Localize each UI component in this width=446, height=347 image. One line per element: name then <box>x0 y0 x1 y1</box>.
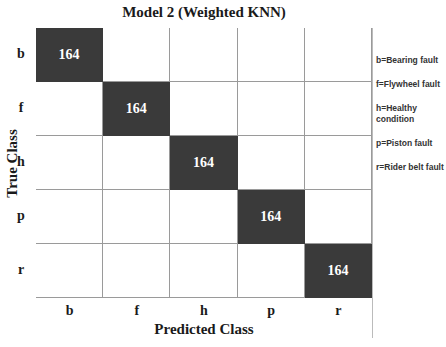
column-label: b <box>36 303 103 319</box>
matrix-cell <box>103 244 170 298</box>
matrix-cell <box>103 28 170 82</box>
legend-entry: p=Piston fault <box>376 138 446 149</box>
column-label: r <box>305 303 372 319</box>
matrix-cell <box>305 28 372 82</box>
matrix-cell <box>238 82 305 136</box>
matrix-cell <box>305 82 372 136</box>
matrix-cell: 164 <box>36 28 103 82</box>
legend-entry: f=Flywheel fault <box>376 79 446 90</box>
row-label: f <box>14 100 28 116</box>
row-label: p <box>14 208 28 224</box>
matrix-cell: 164 <box>170 136 237 190</box>
matrix-cell <box>305 136 372 190</box>
matrix-cell <box>36 190 103 244</box>
column-label: h <box>170 303 237 319</box>
confusion-matrix: 164164164164164 <box>36 28 372 298</box>
matrix-cell <box>238 28 305 82</box>
column-label: f <box>103 303 170 319</box>
matrix-cell <box>170 28 237 82</box>
column-label: p <box>238 303 305 319</box>
row-label: r <box>14 262 28 278</box>
matrix-cell: 164 <box>103 82 170 136</box>
matrix-cell <box>170 190 237 244</box>
legend-divider <box>372 28 373 338</box>
legend: b=Bearing faultf=Flywheel faulth=Healthy… <box>376 55 446 186</box>
matrix-cell <box>36 244 103 298</box>
x-axis-label: Predicted Class <box>36 321 372 338</box>
matrix-cell <box>36 136 103 190</box>
matrix-cell <box>170 82 237 136</box>
matrix-cell <box>103 136 170 190</box>
matrix-cell: 164 <box>238 190 305 244</box>
row-label: h <box>14 154 28 170</box>
legend-entry: r=Rider belt fault <box>376 162 446 173</box>
chart-title: Model 2 (Weighted KNN) <box>36 4 372 21</box>
matrix-cell: 164 <box>305 244 372 298</box>
matrix-cell <box>170 244 237 298</box>
legend-entry: h=Healthy condition <box>376 103 446 125</box>
matrix-cell <box>238 136 305 190</box>
matrix-cell <box>238 244 305 298</box>
matrix-cell <box>305 190 372 244</box>
row-label: b <box>14 46 28 62</box>
legend-entry: b=Bearing fault <box>376 55 446 66</box>
matrix-cell <box>36 82 103 136</box>
matrix-cell <box>103 190 170 244</box>
